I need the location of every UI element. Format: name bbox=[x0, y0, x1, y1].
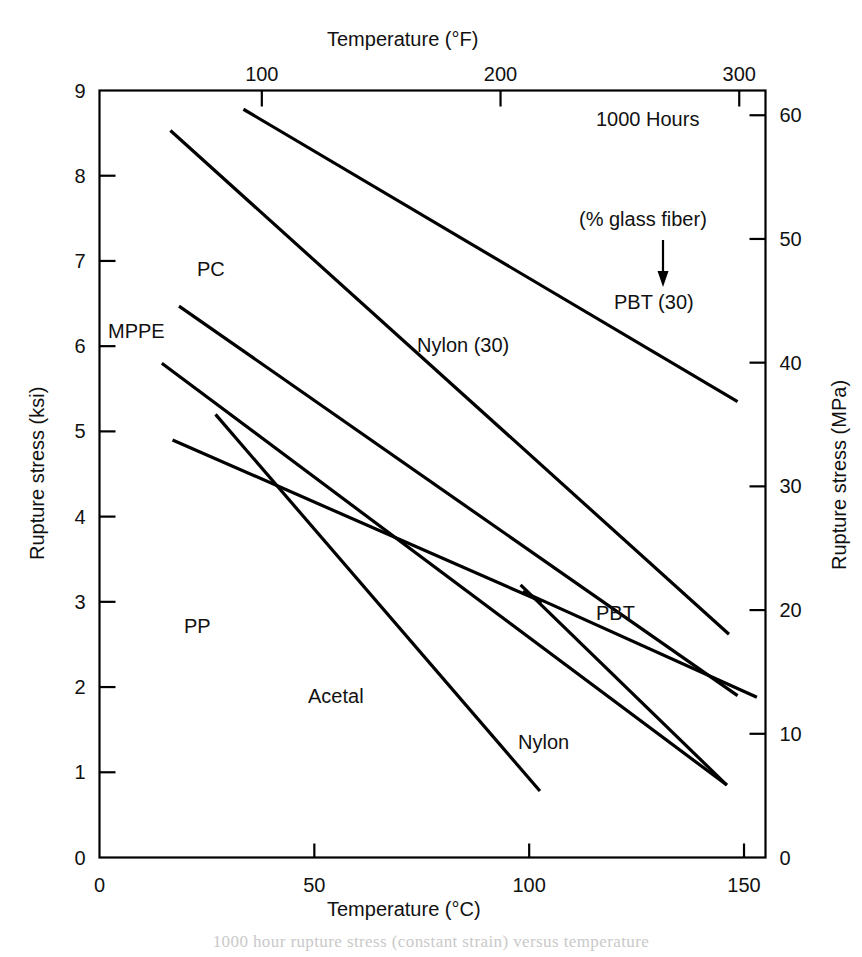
y-tick-label-left-5: 5 bbox=[74, 420, 85, 442]
y-axis-ticks-left bbox=[100, 176, 116, 773]
series-label-acetal: Acetal bbox=[308, 685, 364, 708]
x-tick-label-bottom-50: 50 bbox=[303, 874, 325, 896]
top-axis-title: Temperature (°F) bbox=[327, 28, 478, 51]
x-tick-label-top-200: 200 bbox=[484, 63, 517, 85]
y-tick-label-left-0: 0 bbox=[74, 847, 85, 869]
glass-fiber-note: (% glass fiber) bbox=[579, 208, 707, 231]
y-tick-label-right-50: 50 bbox=[780, 228, 802, 250]
series-label-pbt: PBT bbox=[596, 602, 635, 625]
series-label-nylon: Nylon bbox=[518, 731, 569, 754]
creep-rupture-chart: 0501001501002003000123456789010203040506… bbox=[0, 0, 862, 957]
y-tick-label-left-6: 6 bbox=[74, 335, 85, 357]
series-line-pc bbox=[179, 306, 738, 695]
y-tick-label-right-10: 10 bbox=[780, 723, 802, 745]
series-label-nylon30: Nylon (30) bbox=[417, 334, 509, 357]
bottom-axis-title: Temperature (°C) bbox=[327, 898, 481, 921]
y-tick-label-right-30: 30 bbox=[780, 475, 802, 497]
y-tick-label-right-20: 20 bbox=[780, 599, 802, 621]
y-tick-label-left-9: 9 bbox=[74, 80, 85, 102]
duration-note: 1000 Hours bbox=[596, 108, 699, 131]
x-axis-ticks-top bbox=[262, 91, 739, 107]
y-tick-label-right-40: 40 bbox=[780, 352, 802, 374]
y-tick-label-left-2: 2 bbox=[74, 676, 85, 698]
left-axis-title: Rupture stress (ksi) bbox=[26, 387, 49, 560]
series-label-pc: PC bbox=[197, 258, 225, 281]
figure-caption: 1000 hour rupture stress (constant strai… bbox=[0, 932, 862, 957]
x-tick-label-top-100: 100 bbox=[245, 63, 278, 85]
chart-canvas: 0501001501002003000123456789010203040506… bbox=[0, 0, 862, 957]
series-line-mppe bbox=[162, 363, 727, 785]
x-axis-ticks-bottom bbox=[314, 844, 744, 858]
series-line-nylon-30 bbox=[170, 131, 729, 635]
y-tick-label-right-0: 0 bbox=[780, 847, 791, 869]
plot-frame bbox=[100, 91, 766, 858]
x-tick-label-bottom-100: 100 bbox=[512, 874, 545, 896]
y-axis-ticks-right bbox=[750, 115, 766, 734]
series-label-pp: PP bbox=[184, 615, 211, 638]
x-tick-label-top-300: 300 bbox=[723, 63, 756, 85]
series-line-pbt bbox=[523, 592, 757, 698]
y-tick-label-left-7: 7 bbox=[74, 250, 85, 272]
series-label-mppe: MPPE bbox=[108, 320, 165, 343]
x-tick-label-bottom-150: 150 bbox=[727, 874, 760, 896]
series-line-acetal bbox=[216, 414, 540, 791]
right-axis-title: Rupture stress (MPa) bbox=[828, 380, 851, 570]
y-tick-label-left-4: 4 bbox=[74, 506, 85, 528]
series-label-pbt30: PBT (30) bbox=[614, 291, 694, 314]
y-tick-label-left-8: 8 bbox=[74, 165, 85, 187]
x-tick-label-bottom-0: 0 bbox=[94, 874, 105, 896]
y-tick-label-right-60: 60 bbox=[780, 104, 802, 126]
glass-fiber-arrow bbox=[658, 240, 669, 287]
y-tick-label-left-3: 3 bbox=[74, 591, 85, 613]
y-tick-label-left-1: 1 bbox=[74, 761, 85, 783]
